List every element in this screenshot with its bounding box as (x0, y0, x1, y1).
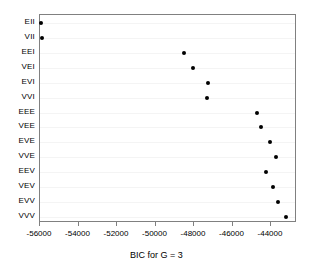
y-axis-tick-label: EII (0, 18, 35, 26)
x-axis-tick-mark (193, 222, 194, 226)
x-axis-tick-mark (78, 222, 79, 226)
y-axis-tick-label: VEE (0, 122, 35, 130)
data-point (205, 96, 209, 100)
data-point (259, 125, 263, 129)
data-point (40, 36, 44, 40)
data-point (284, 215, 288, 219)
y-axis-tick-label: VII (0, 33, 35, 41)
gridline (40, 23, 295, 24)
data-point (206, 81, 210, 85)
y-axis-tick-label: EVI (0, 78, 35, 86)
gridline (40, 202, 295, 203)
gridline (40, 217, 295, 218)
gridline (40, 172, 295, 173)
y-axis-tick-label: EEE (0, 108, 35, 116)
gridline (40, 53, 295, 54)
x-axis-tick-mark (232, 222, 233, 226)
data-point (182, 51, 186, 55)
x-axis-tick-mark (155, 222, 156, 226)
y-axis-tick-label: EVE (0, 137, 35, 145)
plot-panel (39, 14, 296, 222)
y-axis-tick-label: VVE (0, 152, 35, 160)
y-axis-tick-label: EVV (0, 197, 35, 205)
gridline (40, 98, 295, 99)
data-point (39, 21, 43, 25)
x-axis-title: BIC for G = 3 (0, 250, 313, 261)
y-axis-tick-label: VVV (0, 212, 35, 220)
gridline (40, 142, 295, 143)
data-point (255, 111, 259, 115)
x-axis-tick-mark (270, 222, 271, 226)
gridline (40, 83, 295, 84)
data-point (264, 170, 268, 174)
y-axis-tick-label: VEI (0, 63, 35, 71)
y-axis-label-group: EIIVIIEEIVEIEVIVVIEEEVEEEVEVVEEEVVEVEVVV… (0, 14, 35, 222)
y-axis-tick-label: VEV (0, 182, 35, 190)
gridline (40, 157, 295, 158)
data-point (268, 140, 272, 144)
x-axis-tick-mark (116, 222, 117, 226)
x-axis-tick-mark (39, 222, 40, 226)
y-axis-tick-label: VVI (0, 93, 35, 101)
bic-dot-chart: EIIVIIEEIVEIEVIVVIEEEVEEEVEVVEEEVVEVEVVV… (0, 0, 313, 272)
data-point (274, 155, 278, 159)
gridline (40, 187, 295, 188)
x-axis-tick-label: -44000 (247, 229, 293, 238)
data-point (276, 200, 280, 204)
gridline (40, 38, 295, 39)
data-point (271, 185, 275, 189)
gridline (40, 68, 295, 69)
y-axis-tick-label: EEV (0, 167, 35, 175)
gridline (40, 127, 295, 128)
y-axis-tick-label: EEI (0, 48, 35, 56)
data-point (191, 66, 195, 70)
